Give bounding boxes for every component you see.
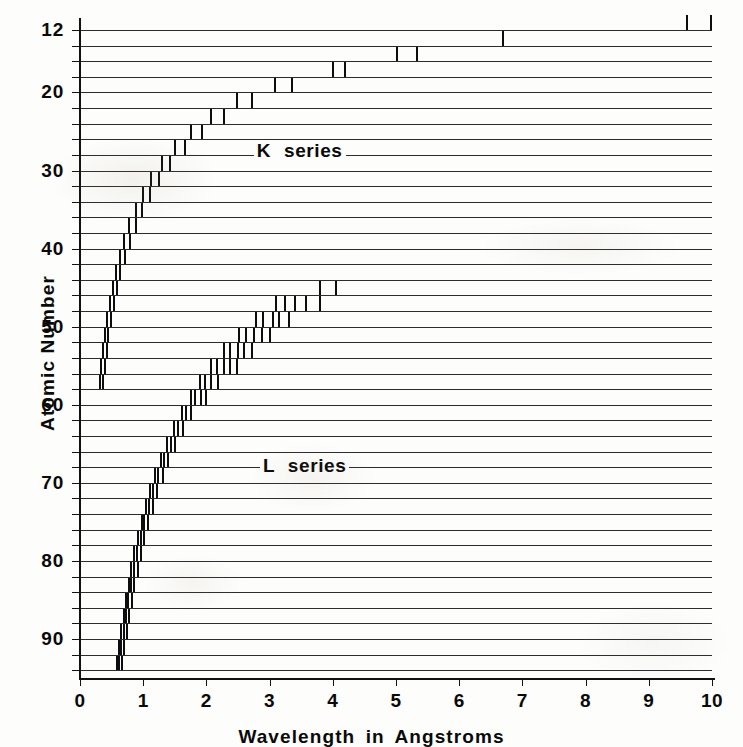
spectral-line — [135, 218, 137, 233]
spectral-line — [118, 656, 120, 671]
spectral-line — [184, 140, 186, 155]
spectral-line — [229, 343, 231, 358]
element-rule — [80, 592, 712, 593]
spectral-line — [110, 312, 112, 327]
element-rule — [80, 342, 712, 343]
spectral-line — [223, 359, 225, 374]
spectral-line — [416, 47, 418, 62]
spectral-line — [177, 421, 179, 436]
y-axis-tick — [72, 171, 80, 172]
y-axis-tick-label: 20 — [14, 81, 64, 103]
spectral-line — [210, 375, 212, 390]
xray-spectra-figure: Atomic Number Wavelength in Angstroms 12… — [0, 0, 743, 747]
spectral-line — [161, 156, 163, 171]
element-rule — [80, 530, 712, 531]
spectral-line — [129, 234, 131, 249]
element-rule — [80, 108, 712, 109]
spectral-line — [223, 343, 225, 358]
y-axis-tick — [72, 467, 80, 468]
x-axis-tick — [459, 680, 460, 686]
spectral-line — [100, 359, 102, 374]
spectral-line — [205, 390, 207, 405]
spectral-line — [154, 468, 156, 483]
spectral-line — [245, 328, 247, 343]
x-axis-tick — [649, 680, 650, 686]
y-axis-tick — [72, 249, 80, 250]
spectral-line — [141, 203, 143, 218]
spectral-line — [319, 281, 321, 296]
y-axis-tick — [72, 46, 80, 47]
element-rule — [80, 623, 712, 624]
element-rule — [80, 389, 712, 390]
spectral-line — [140, 546, 142, 561]
y-axis-tick-label: 40 — [14, 238, 64, 260]
x-axis-tick-label: 10 — [692, 690, 732, 712]
y-axis-tick — [72, 608, 80, 609]
y-axis-tick-label: 60 — [14, 394, 64, 416]
spectral-line — [104, 328, 106, 343]
element-rule — [80, 77, 712, 78]
y-axis-tick — [72, 295, 80, 296]
y-axis-tick — [72, 389, 80, 390]
element-rule — [80, 280, 712, 281]
element-rule — [80, 639, 712, 640]
spectral-line — [305, 296, 307, 311]
element-rule — [80, 670, 712, 671]
spectral-line — [319, 296, 321, 311]
y-axis-tick — [72, 139, 80, 140]
y-axis-tick — [72, 577, 80, 578]
spectral-line — [216, 359, 218, 374]
y-axis-tick — [72, 514, 80, 515]
y-axis-tick — [72, 670, 80, 671]
spectral-line — [158, 172, 160, 187]
y-axis-tick — [72, 311, 80, 312]
spectral-line — [99, 375, 101, 390]
y-axis-tick — [72, 420, 80, 421]
element-rule — [80, 374, 712, 375]
y-axis-tick — [72, 155, 80, 156]
spectral-line — [502, 31, 504, 46]
y-axis-tick — [72, 592, 80, 593]
spectral-line — [104, 359, 106, 374]
x-axis-tick-label: 1 — [123, 690, 163, 712]
spectral-line — [162, 468, 164, 483]
element-rule — [80, 452, 712, 453]
element-rule — [80, 514, 712, 515]
y-axis-tick — [72, 655, 80, 656]
spectral-line — [181, 406, 183, 421]
spectral-line — [128, 218, 130, 233]
spectral-line — [156, 484, 158, 499]
y-axis-tick-label: 12 — [14, 19, 64, 41]
spectral-line — [170, 437, 172, 452]
element-rule — [80, 295, 712, 296]
spectral-line — [278, 312, 280, 327]
element-rule — [80, 327, 712, 328]
y-axis-tick — [72, 61, 80, 62]
element-rule — [80, 498, 712, 499]
y-axis-tick — [72, 233, 80, 234]
spectral-line — [106, 343, 108, 358]
spectral-line — [135, 203, 137, 218]
spectral-line — [128, 609, 130, 624]
x-axis-tick-label: 6 — [439, 690, 479, 712]
y-axis-tick — [72, 530, 80, 531]
spectral-line — [274, 78, 276, 93]
y-axis-tick-label: 70 — [14, 472, 64, 494]
x-axis-tick-label: 0 — [60, 690, 100, 712]
x-axis-tick — [206, 680, 207, 686]
y-axis-tick — [72, 264, 80, 265]
spectral-line — [190, 406, 192, 421]
spectral-line — [182, 421, 184, 436]
x-axis-tick-label: 9 — [629, 690, 669, 712]
element-rule — [80, 311, 712, 312]
element-rule — [80, 608, 712, 609]
spectral-line — [255, 312, 257, 327]
y-axis-tick — [72, 639, 80, 640]
spectral-line — [119, 250, 121, 265]
y-axis-tick-label: 80 — [14, 550, 64, 572]
spectral-line — [251, 93, 253, 108]
spectral-line — [167, 453, 169, 468]
y-axis-tick-label: 90 — [14, 628, 64, 650]
spectral-line — [119, 265, 121, 280]
spectral-line — [236, 359, 238, 374]
